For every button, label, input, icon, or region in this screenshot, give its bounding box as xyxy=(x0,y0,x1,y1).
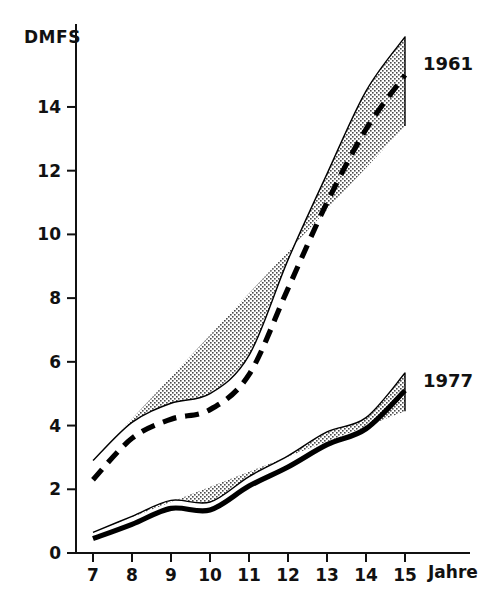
y-tick-label: 10 xyxy=(37,224,61,244)
x-tick-label: 15 xyxy=(393,565,417,585)
x-tick-label: 12 xyxy=(276,565,300,585)
x-tick-label: 11 xyxy=(237,565,261,585)
x-tick-label: 13 xyxy=(315,565,339,585)
confidence-band-1961 xyxy=(93,37,405,461)
y-axis-title: DMFS xyxy=(24,27,81,47)
y-tick-label: 12 xyxy=(37,161,61,181)
y-tick-label: 6 xyxy=(49,352,61,372)
chart-canvas: 02468101214789101112131415 19611977 DMFS… xyxy=(0,0,497,605)
series-label-1961: 1961 xyxy=(423,53,473,74)
y-tick-label: 0 xyxy=(49,543,61,563)
x-tick-label: 9 xyxy=(165,565,177,585)
dmfs-line-chart: 02468101214789101112131415 19611977 DMFS… xyxy=(0,0,497,605)
confidence-band-1977 xyxy=(93,373,405,532)
y-tick-label: 4 xyxy=(49,416,61,436)
x-tick-label: 14 xyxy=(354,565,378,585)
y-tick-label: 8 xyxy=(49,288,61,308)
y-tick-label: 2 xyxy=(49,479,61,499)
series-label-1977: 1977 xyxy=(423,370,473,391)
x-tick-label: 8 xyxy=(126,565,138,585)
x-tick-label: 10 xyxy=(198,565,222,585)
confidence-bands-layer xyxy=(93,37,405,532)
series-labels-layer: 19611977 xyxy=(423,53,473,390)
y-tick-label: 14 xyxy=(37,97,61,117)
x-tick-label: 7 xyxy=(87,565,99,585)
x-axis-title: Jahre xyxy=(427,562,478,582)
